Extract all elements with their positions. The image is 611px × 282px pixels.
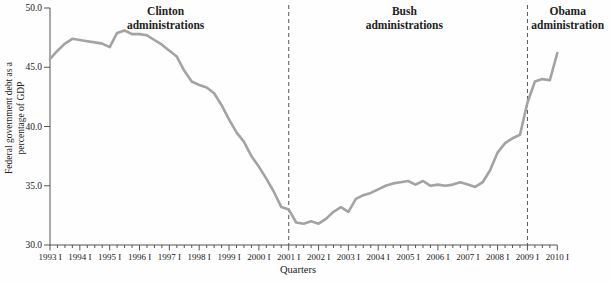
x-tick-label: 1998 I (188, 252, 211, 262)
administration-label: administrations (127, 19, 205, 31)
x-tick-label: 1999 I (217, 252, 240, 262)
x-tick-label: 1994 I (68, 252, 91, 262)
administration-label: Obama (550, 5, 587, 17)
y-axis-title-line2: percentage of GDP (16, 82, 26, 155)
administration-label: Bush (392, 5, 418, 17)
x-tick-label: 2007 I (456, 252, 479, 262)
x-tick-label: 1995 I (98, 252, 121, 262)
x-tick-label: 2010 I (546, 252, 569, 262)
y-tick-label: 45.0 (25, 62, 42, 72)
x-tick-label: 1996 I (128, 252, 151, 262)
y-axis-title-line1: Federal government debt as a (4, 61, 14, 174)
chart-generated-content: 30.035.040.045.050.01993 I1994 I1995 I19… (25, 3, 604, 261)
x-tick-label: 2006 I (426, 252, 449, 262)
chart-canvas: 30.035.040.045.050.01993 I1994 I1995 I19… (0, 0, 611, 282)
x-tick-label: 1997 I (158, 252, 181, 262)
administration-label: Clinton (147, 5, 185, 17)
x-axis-title: Quarters (280, 264, 316, 275)
x-tick-label: 2005 I (396, 252, 419, 262)
y-tick-label: 50.0 (25, 3, 42, 13)
debt-percentage-line (50, 31, 557, 224)
x-tick-label: 1993 I (38, 252, 61, 262)
y-tick-label: 40.0 (25, 122, 42, 132)
x-tick-label: 2000 I (247, 252, 270, 262)
x-tick-label: 2001 I (277, 252, 300, 262)
x-tick-label: 2002 I (307, 252, 330, 262)
x-tick-label: 2009 I (516, 252, 539, 262)
debt-gdp-figure: 30.035.040.045.050.01993 I1994 I1995 I19… (0, 0, 611, 282)
y-tick-label: 35.0 (25, 181, 42, 191)
x-tick-label: 2008 I (486, 252, 509, 262)
administration-label: administration (531, 19, 604, 31)
x-tick-label: 2004 I (367, 252, 390, 262)
y-tick-label: 30.0 (25, 240, 42, 250)
x-tick-label: 2003 I (337, 252, 360, 262)
administration-label: administrations (366, 19, 444, 31)
